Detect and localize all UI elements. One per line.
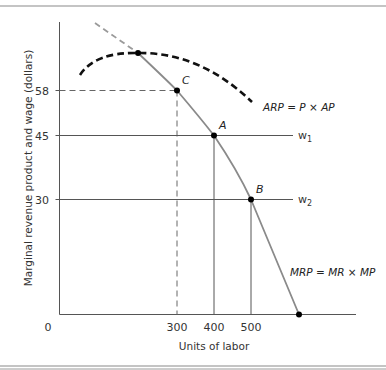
point-a <box>211 133 217 139</box>
mrp-zero-point <box>296 312 302 318</box>
point-b <box>248 197 254 203</box>
y-axis-title: Marginal revenue product and wage (dolla… <box>22 50 34 287</box>
arp-label: ARP = P × AP <box>262 101 335 113</box>
wage-label-w2: w2 <box>298 193 312 208</box>
x-tick-label: 500 <box>241 321 262 334</box>
mrp-curve-dashed-segment <box>95 23 138 53</box>
point-label-b: B <box>256 183 264 196</box>
arp-max-point <box>135 50 141 56</box>
wage-label-w1: w1 <box>298 129 312 144</box>
origin-label: 0 <box>45 321 52 334</box>
y-tick-label: 30 <box>35 194 49 207</box>
point-label-c: C <box>182 74 190 87</box>
mrp-curve <box>138 53 299 315</box>
x-tick-label: 300 <box>167 321 188 334</box>
x-axis-title: Units of labor <box>179 340 250 352</box>
arp-curve <box>80 53 252 102</box>
point-c <box>174 88 180 94</box>
y-tick-label: 45 <box>35 130 49 143</box>
y-tick-label: 58 <box>35 85 49 98</box>
point-label-a: A <box>218 119 227 132</box>
mrp-chart: CAB 0 300400500 584530 Units of labor Ma… <box>0 0 386 370</box>
mrp-label: MRP = MR × MP <box>290 266 376 278</box>
x-tick-label: 400 <box>204 321 225 334</box>
